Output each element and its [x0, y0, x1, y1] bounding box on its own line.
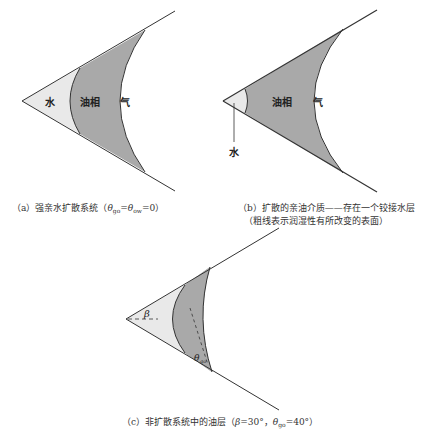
- panel-b-caption-line2: （粗线表示润湿性有所改变的表面）: [244, 214, 388, 227]
- beta-value: =30°，: [240, 417, 273, 427]
- panel-b-oil-label: 油相: [272, 96, 292, 108]
- panel-a-diagram: 水 油相 气: [22, 11, 175, 191]
- theta-subscript-ow: ow: [133, 207, 142, 214]
- panel-b-water-region: [223, 89, 248, 113]
- panel-b-diagram: 水 油相 气: [223, 10, 377, 192]
- panel-a-caption: （a）强亲水扩散系统（θgo=θow=0）: [12, 201, 164, 214]
- panel-c-theta-subscript: go: [200, 358, 206, 365]
- panel-a-water-label: 水: [44, 96, 56, 108]
- panel-b-water-label: 水: [228, 146, 240, 158]
- panel-c-caption-text: （c）非扩散系统中的油层（: [122, 417, 235, 427]
- panel-a-caption-suffix: =0）: [142, 203, 164, 213]
- panel-c-beta-label: β: [143, 308, 150, 319]
- panel-a-caption-text: （a）强亲水扩散系统（: [12, 203, 107, 213]
- theta-value: =40°）: [286, 417, 319, 427]
- theta-subscript-go: go: [278, 421, 285, 428]
- panel-c-caption: （c）非扩散系统中的油层（β=30°，θgo=40°）: [122, 415, 318, 428]
- panel-a-oil-label: 油相: [80, 96, 100, 108]
- panel-c-diagram: β θ go: [126, 228, 279, 410]
- panel-b-gas-label: 气: [312, 96, 323, 108]
- panel-a-gas-label: 气: [119, 96, 130, 108]
- panel-b-caption-line1: （b）扩散的亲油介质——存在一个铰接水层: [238, 201, 415, 214]
- equals-sign: =: [120, 203, 128, 213]
